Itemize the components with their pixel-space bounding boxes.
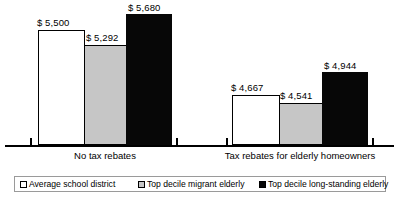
legend-item-average-school-district[interactable]: Average school district	[20, 179, 115, 189]
value-label-group1-top-decile-migrant-elderly: $ 5,292	[86, 32, 118, 43]
bar-group2-average-school-district	[232, 95, 280, 145]
x-axis-baseline	[5, 145, 394, 147]
value-label-group1-top-decile-long-standing-elderly: $ 5,680	[128, 2, 160, 13]
plot-area: $ 5,500 $ 5,292 $ 5,680 $ 4,667 $ 4,541 …	[0, 0, 401, 160]
category-label-no-tax-rebates: No tax rebates	[38, 150, 172, 161]
value-label-group2-top-decile-long-standing-elderly: $ 4,944	[324, 60, 356, 71]
value-label-group2-top-decile-migrant-elderly: $ 4,541	[280, 90, 312, 101]
value-label-group1-average-school-district: $ 5,500	[37, 17, 69, 28]
legend-item-top-decile-migrant-elderly[interactable]: Top decile migrant elderly	[138, 179, 244, 189]
bar-group1-top-decile-long-standing-elderly	[126, 14, 172, 145]
axis-tick-right	[372, 138, 374, 146]
bar-group2-top-decile-long-standing-elderly	[322, 72, 368, 145]
legend-item-label: Top decile long-standing elderly	[268, 179, 388, 189]
bar-group1-top-decile-migrant-elderly	[84, 45, 127, 145]
bar-chart: $ 5,500 $ 5,292 $ 5,680 $ 4,667 $ 4,541 …	[0, 0, 401, 204]
legend-item-label: Top decile migrant elderly	[147, 179, 244, 189]
legend-swatch-gray-icon	[138, 181, 145, 188]
category-label-tax-rebates-for-elderly-homeowners: Tax rebates for elderly homeowners	[222, 150, 378, 161]
legend-swatch-white-icon	[20, 181, 27, 188]
axis-tick-middle-left	[176, 138, 178, 146]
legend-item-top-decile-long-standing-elderly[interactable]: Top decile long-standing elderly	[259, 179, 388, 189]
bar-group2-top-decile-migrant-elderly	[279, 103, 323, 145]
axis-tick-left	[30, 138, 32, 146]
axis-tick-middle-right	[226, 138, 228, 146]
legend-item-label: Average school district	[29, 179, 115, 189]
legend-swatch-black-icon	[259, 181, 266, 188]
bar-group1-average-school-district	[38, 30, 85, 145]
legend: Average school district Top decile migra…	[14, 176, 386, 192]
value-label-group2-average-school-district: $ 4,667	[231, 82, 263, 93]
